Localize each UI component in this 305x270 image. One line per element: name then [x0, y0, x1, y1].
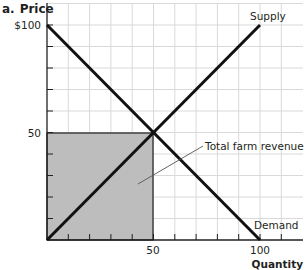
y-tick-label-50: 50 [28, 127, 41, 139]
supply-label: Supply [250, 10, 286, 22]
total-farm-revenue-label: Total farm revenue [204, 140, 304, 152]
x-axis-title: Quantity [252, 258, 304, 270]
demand-label: Demand [254, 219, 299, 231]
y-tick-label-100: $100 [14, 19, 41, 31]
x-tick-label-50: 50 [146, 244, 159, 256]
chart-title: a.Price [2, 2, 54, 16]
supply-demand-chart: a.Price $100 50 50 100 Quantity Supply D… [0, 0, 305, 270]
x-tick-label-100: 100 [250, 244, 270, 256]
